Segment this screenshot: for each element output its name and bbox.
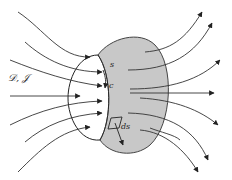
area-element-label: ds xyxy=(121,122,130,131)
surface-label: s xyxy=(110,60,114,69)
field-label: 𝒟, 𝒥 xyxy=(8,72,33,84)
contour-arrow xyxy=(103,70,106,88)
contour-label: c xyxy=(109,81,114,90)
field-flux-diagram: 𝒟, 𝒥 s c ds xyxy=(0,0,232,180)
incoming-field-lines xyxy=(10,12,102,172)
